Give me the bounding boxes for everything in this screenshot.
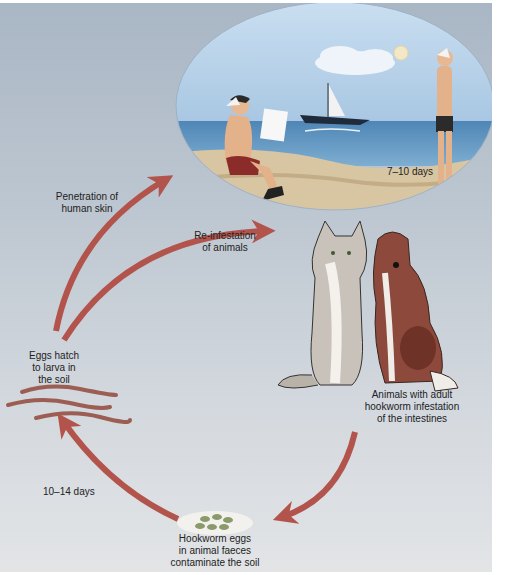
label-reinfestation: Re-infestation of animals	[180, 230, 270, 254]
cat-illustration	[278, 221, 367, 388]
eggs-illustration	[177, 511, 253, 535]
arrow-animals-to-eggs	[282, 432, 355, 517]
larva-illustration	[8, 387, 130, 422]
arrow-eggs-to-larva	[63, 421, 178, 519]
label-10-14-days: 10–14 days	[43, 486, 113, 498]
label-hookworm-eggs: Hookworm eggs in animal faeces contamina…	[160, 533, 270, 569]
label-7-10-days: 7–10 days	[380, 166, 440, 178]
label-penetration: Penetration of human skin	[46, 191, 128, 215]
dog-illustration	[373, 232, 458, 391]
label-eggs-hatch: Eggs hatch to larva in the soil	[22, 350, 86, 386]
diagram-canvas: Penetration of human skin Re-infestation…	[0, 3, 492, 572]
label-animals-adult: Animals with adult hookworm infestation …	[352, 389, 472, 425]
